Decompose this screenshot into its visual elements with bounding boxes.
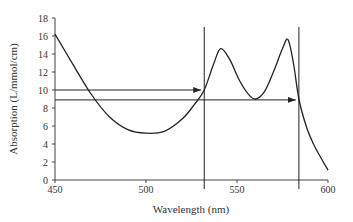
y-axis-label: Absorption (L/mmol/cm) <box>7 43 20 155</box>
x-tick-label: 500 <box>139 184 154 195</box>
y-tick-label: 6 <box>43 121 48 132</box>
y-tick-label: 12 <box>38 67 48 78</box>
x-axis-label: Wavelength (nm) <box>153 203 230 216</box>
y-tick-label: 8 <box>43 103 48 114</box>
x-tick-label: 450 <box>48 184 63 195</box>
chart: 024681012141618450500550600 Wavelength (… <box>0 0 353 222</box>
y-tick-label: 4 <box>43 139 48 150</box>
y-tick-label: 16 <box>38 31 48 42</box>
annotations <box>55 27 299 189</box>
x-tick-label: 600 <box>321 184 336 195</box>
y-tick-label: 10 <box>38 85 48 96</box>
axes: 024681012141618450500550600 <box>38 13 336 195</box>
spectrum-line <box>55 34 328 170</box>
x-tick-label: 550 <box>230 184 245 195</box>
y-tick-label: 14 <box>38 49 48 60</box>
y-tick-label: 18 <box>38 13 48 24</box>
absorption-chart: 024681012141618450500550600 Wavelength (… <box>0 0 353 222</box>
y-tick-label: 2 <box>43 157 48 168</box>
